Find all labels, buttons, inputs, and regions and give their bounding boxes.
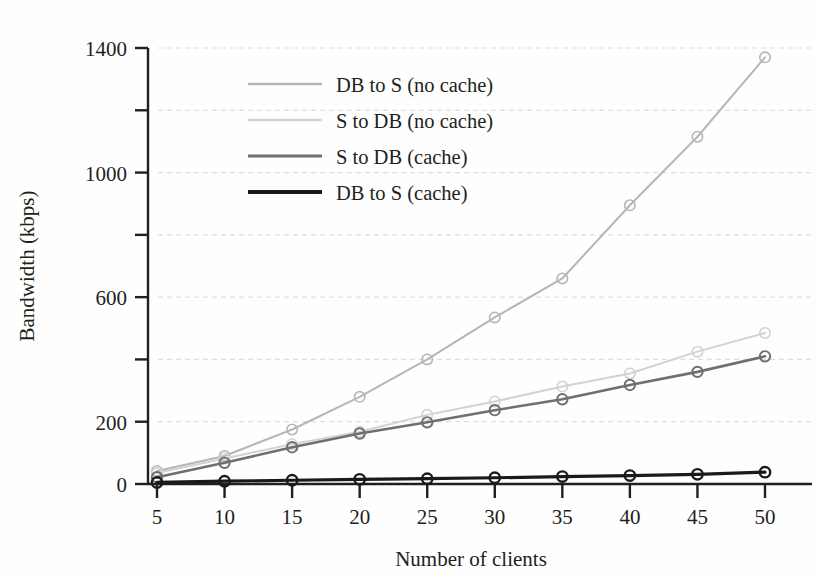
x-tick-label-45: 45 <box>687 505 708 529</box>
x-tick-label-40: 40 <box>619 505 640 529</box>
data-point-marker <box>354 474 364 484</box>
data-point-marker <box>422 474 432 484</box>
series-1 <box>152 328 770 479</box>
data-point-marker <box>354 428 364 438</box>
x-tick-label-15: 15 <box>282 505 303 529</box>
x-tick-label-30: 30 <box>484 505 505 529</box>
data-point-marker <box>760 351 770 361</box>
data-point-marker <box>625 200 635 210</box>
y-tick-label-200: 200 <box>96 411 128 435</box>
y-tick-label-600: 600 <box>96 286 128 310</box>
data-point-marker <box>625 380 635 390</box>
data-point-marker <box>625 368 635 378</box>
data-point-marker <box>692 469 702 479</box>
data-point-marker <box>490 405 500 415</box>
data-point-marker <box>760 52 770 62</box>
data-point-marker <box>760 467 770 477</box>
series-line-3 <box>157 472 765 482</box>
series-2 <box>152 351 770 482</box>
data-point-marker <box>692 132 702 142</box>
series-line-2 <box>157 356 765 477</box>
data-point-marker <box>287 475 297 485</box>
x-tick-label-20: 20 <box>349 505 370 529</box>
legend: DB to S (no cache)S to DB (no cache)S to… <box>248 74 493 205</box>
data-point-marker <box>422 354 432 364</box>
legend-label-0: DB to S (no cache) <box>336 74 493 97</box>
x-tick-label-50: 50 <box>755 505 776 529</box>
y-tick-label-1000: 1000 <box>85 162 127 186</box>
y-tick-label-0: 0 <box>117 473 128 497</box>
y-axis-title: Bandwidth (kbps) <box>15 190 39 341</box>
x-tick-label-5: 5 <box>152 505 163 529</box>
x-tick-label-10: 10 <box>214 505 235 529</box>
data-point-marker <box>692 367 702 377</box>
data-point-marker <box>557 394 567 404</box>
legend-label-3: DB to S (cache) <box>336 182 468 205</box>
data-point-marker <box>219 476 229 486</box>
data-point-marker <box>625 470 635 480</box>
chart-figure: 0200600100014005101520253035404550Number… <box>0 0 820 579</box>
data-point-marker <box>557 273 567 283</box>
data-point-marker <box>557 471 567 481</box>
data-point-marker <box>692 346 702 356</box>
data-point-marker <box>287 424 297 434</box>
data-point-marker <box>219 458 229 468</box>
x-tick-label-35: 35 <box>552 505 573 529</box>
data-point-marker <box>354 392 364 402</box>
legend-label-2: S to DB (cache) <box>336 146 468 169</box>
plot-canvas: 0200600100014005101520253035404550Number… <box>0 0 820 579</box>
data-point-marker <box>490 473 500 483</box>
data-point-marker <box>152 477 162 487</box>
x-tick-label-25: 25 <box>417 505 438 529</box>
data-point-marker <box>422 417 432 427</box>
legend-label-1: S to DB (no cache) <box>336 110 493 133</box>
data-point-marker <box>760 328 770 338</box>
x-axis-title: Number of clients <box>395 547 547 571</box>
y-tick-label-1400: 1400 <box>85 37 127 61</box>
series-line-1 <box>157 333 765 473</box>
data-point-marker <box>557 381 567 391</box>
data-point-marker <box>287 442 297 452</box>
data-point-marker <box>490 312 500 322</box>
